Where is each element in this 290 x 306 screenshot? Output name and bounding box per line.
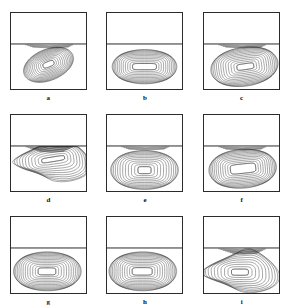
panel-label-g: g bbox=[47, 298, 51, 306]
panel-label-c: c bbox=[240, 94, 243, 102]
panel-cell-b: b bbox=[97, 0, 194, 102]
panel-cell-a: a bbox=[0, 0, 97, 102]
contour-panel-e bbox=[106, 114, 183, 192]
panel-cell-g: g bbox=[0, 204, 97, 306]
panel-cell-d: d bbox=[0, 102, 97, 204]
contour-panel-a bbox=[10, 12, 87, 90]
panel-cell-f: f bbox=[193, 102, 290, 204]
contour-panel-c bbox=[203, 12, 280, 90]
panel-label-h: h bbox=[143, 298, 147, 306]
panel-cell-c: c bbox=[193, 0, 290, 102]
contour-panel-b bbox=[106, 12, 183, 90]
panel-cell-i: i bbox=[193, 204, 290, 306]
panel-label-f: f bbox=[240, 196, 242, 204]
panel-label-a: a bbox=[47, 94, 51, 102]
panel-grid: abcdefghi bbox=[0, 0, 290, 306]
panel-label-e: e bbox=[143, 196, 146, 204]
contour-panel-h bbox=[106, 216, 183, 294]
panel-cell-h: h bbox=[97, 204, 194, 306]
contour-panel-d bbox=[10, 114, 87, 192]
contour-figure: abcdefghi bbox=[0, 0, 290, 306]
contour-panel-f bbox=[203, 114, 280, 192]
panel-cell-e: e bbox=[97, 102, 194, 204]
panel-label-b: b bbox=[143, 94, 147, 102]
contour-panel-g bbox=[10, 216, 87, 294]
panel-label-i: i bbox=[241, 298, 243, 306]
contour-panel-i bbox=[203, 216, 280, 294]
panel-label-d: d bbox=[46, 196, 50, 204]
